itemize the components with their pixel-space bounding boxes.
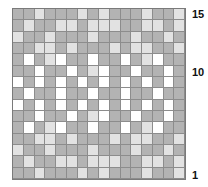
chart-cell — [153, 43, 164, 54]
chart-cell — [174, 145, 185, 156]
chart-cell — [110, 77, 121, 88]
chart-cell — [35, 32, 46, 43]
chart-cell — [24, 54, 35, 65]
chart-cell — [131, 9, 142, 20]
chart-cell — [45, 122, 56, 133]
chart-cell — [121, 122, 132, 133]
chart-cell — [24, 168, 35, 179]
chart-cell — [99, 145, 110, 156]
chart-cell — [174, 66, 185, 77]
chart-cell — [45, 156, 56, 167]
chart-cell — [153, 77, 164, 88]
chart-cell — [13, 54, 24, 65]
chart-cell — [56, 88, 67, 99]
chart-cell — [88, 168, 99, 179]
chart-cell — [78, 122, 89, 133]
chart-cell — [121, 145, 132, 156]
chart-cell — [45, 88, 56, 99]
chart-cell — [56, 43, 67, 54]
chart-cell — [110, 43, 121, 54]
chart-cell — [45, 77, 56, 88]
chart-cell — [78, 9, 89, 20]
chart-cell — [24, 134, 35, 145]
chart-cell — [131, 43, 142, 54]
chart-cell — [67, 134, 78, 145]
chart-cell — [13, 156, 24, 167]
chart-cell — [56, 9, 67, 20]
chart-cell — [164, 32, 175, 43]
chart-cell — [67, 145, 78, 156]
chart-cell — [142, 145, 153, 156]
chart-cell — [45, 100, 56, 111]
chart-cell — [45, 66, 56, 77]
chart-cell — [174, 9, 185, 20]
chart-cell — [13, 43, 24, 54]
chart-cell — [35, 122, 46, 133]
chart-cell — [174, 32, 185, 43]
chart-cell — [110, 100, 121, 111]
chart-cell — [121, 88, 132, 99]
chart-cell — [142, 134, 153, 145]
chart-cell — [164, 134, 175, 145]
chart-cell — [142, 111, 153, 122]
chart-cell — [131, 100, 142, 111]
chart-cell — [45, 32, 56, 43]
chart-cell — [110, 111, 121, 122]
chart-cell — [88, 145, 99, 156]
chart-cell — [45, 43, 56, 54]
chart-cell — [153, 111, 164, 122]
chart-cell — [13, 111, 24, 122]
row-label-15: 15 — [192, 9, 204, 20]
chart-cell — [56, 20, 67, 31]
chart-cell — [164, 88, 175, 99]
chart-cell — [99, 156, 110, 167]
chart-cell — [174, 122, 185, 133]
chart-cell — [45, 111, 56, 122]
chart-cell — [78, 54, 89, 65]
chart-cell — [67, 88, 78, 99]
chart-cell — [67, 111, 78, 122]
chart-cell — [78, 100, 89, 111]
chart-cell — [110, 9, 121, 20]
chart-cell — [67, 66, 78, 77]
chart-cell — [24, 77, 35, 88]
chart-cell — [88, 77, 99, 88]
chart-cell — [110, 145, 121, 156]
chart-cell — [99, 9, 110, 20]
chart-cell — [88, 111, 99, 122]
chart-cell — [88, 122, 99, 133]
chart-cell — [174, 111, 185, 122]
chart-cell — [121, 43, 132, 54]
chart-cell — [56, 100, 67, 111]
chart-cell — [164, 156, 175, 167]
chart-cell — [110, 122, 121, 133]
chart-cell — [35, 168, 46, 179]
chart-cell — [35, 88, 46, 99]
chart-cell — [88, 20, 99, 31]
chart-cell — [142, 43, 153, 54]
chart-cell — [88, 9, 99, 20]
chart-cell — [164, 111, 175, 122]
chart-cell — [13, 100, 24, 111]
chart-cell — [78, 145, 89, 156]
chart-cell — [164, 77, 175, 88]
chart-cell — [153, 145, 164, 156]
chart-cell — [99, 66, 110, 77]
chart-cell — [24, 100, 35, 111]
chart-cell — [56, 156, 67, 167]
chart-cell — [164, 43, 175, 54]
chart-cell — [35, 100, 46, 111]
chart-cell — [56, 168, 67, 179]
chart-cell — [78, 111, 89, 122]
chart-cell — [110, 88, 121, 99]
chart-cell — [153, 122, 164, 133]
chart-cell — [78, 77, 89, 88]
chart-cell — [153, 134, 164, 145]
chart-cell — [88, 100, 99, 111]
chart-cell — [99, 20, 110, 31]
chart-cell — [45, 9, 56, 20]
chart-cell — [131, 66, 142, 77]
chart-cell — [121, 9, 132, 20]
chart-cell — [13, 32, 24, 43]
row-label-10: 10 — [192, 67, 204, 78]
